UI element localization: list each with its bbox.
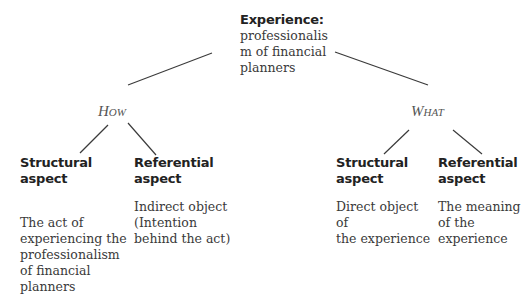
root-line: m of financial [240,44,360,60]
leaf-line: of the [438,215,531,231]
leaf-line: Indirect object [134,199,249,215]
leaf-what-referential: Referential aspect The meaning of the ex… [438,155,531,247]
root-node-experience: Experience: professionalis m of financia… [240,12,360,76]
leaf-line: planners [20,279,135,295]
leaf-heading: Referential [134,155,249,171]
branch-how-label: How [98,103,126,120]
leaf-how-structural: Structural aspect The act of experiencin… [20,155,135,295]
edge-root-how [128,53,212,85]
edge-how-referential [128,123,156,155]
root-line: professionalis [240,28,360,44]
leaf-line: Direct object of [336,199,434,231]
leaf-heading: aspect [438,171,531,187]
leaf-line: behind the act) [134,231,249,247]
leaf-line: of financial [20,263,135,279]
edge-what-referential [453,130,482,154]
leaf-line: (Intention [134,215,249,231]
root-line: planners [240,60,360,76]
leaf-line: the experience [336,231,434,247]
edge-how-structural [80,125,108,153]
leaf-how-referential: Referential aspect Indirect object (Inte… [134,155,249,247]
leaf-heading: Referential [438,155,531,171]
leaf-heading: Structural [336,155,434,171]
leaf-what-structural: Structural aspect Direct object of the e… [336,155,434,247]
leaf-line: The meaning [438,199,531,215]
leaf-line: experiencing the [20,231,135,247]
root-title: Experience: [240,12,360,28]
leaf-heading: aspect [134,171,249,187]
edge-what-structural [384,130,409,154]
leaf-line: professionalism [20,247,135,263]
leaf-line: The act of [20,215,135,231]
branch-what-label: What [411,103,444,120]
leaf-heading: Structural aspect [20,155,135,187]
leaf-line: experience [438,231,531,247]
leaf-heading: aspect [336,171,434,187]
